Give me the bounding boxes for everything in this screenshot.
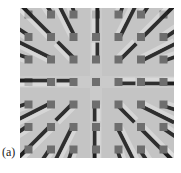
pillar-grid-render xyxy=(20,8,174,158)
perspective-grid-figure xyxy=(20,8,174,158)
panel-label: (a) xyxy=(2,145,15,160)
